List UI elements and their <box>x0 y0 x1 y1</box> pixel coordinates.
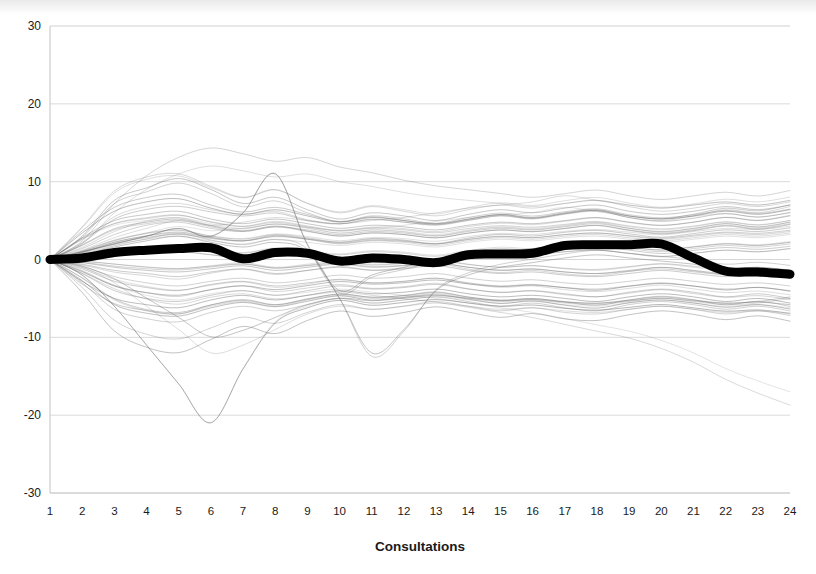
x-tick-label: 5 <box>175 505 181 517</box>
x-tick-label: 18 <box>591 505 604 517</box>
x-tick-label: 16 <box>526 505 539 517</box>
y-tick-label: 0 <box>34 253 41 267</box>
x-tick-label: 10 <box>333 505 346 517</box>
x-tick-label: 9 <box>304 505 310 517</box>
x-tick-label: 4 <box>143 505 150 517</box>
x-tick-label: 22 <box>719 505 732 517</box>
x-tick-label: 6 <box>208 505 214 517</box>
x-tick-label: 15 <box>494 505 507 517</box>
x-axis-title: Consultations <box>375 539 465 554</box>
x-tick-label: 12 <box>398 505 411 517</box>
chart-container: 3020100-10-20-30 12345678910111213141516… <box>0 0 816 574</box>
x-tick-label: 2 <box>79 505 85 517</box>
x-tick-label: 17 <box>558 505 571 517</box>
x-tick-label: 1 <box>47 505 53 517</box>
x-tick-label: 7 <box>240 505 246 517</box>
y-tick-label: 30 <box>28 19 42 33</box>
x-tick-label: 24 <box>784 505 797 517</box>
x-tick-label: 3 <box>111 505 117 517</box>
y-tick-label: 10 <box>28 175 42 189</box>
x-tick-label: 20 <box>655 505 668 517</box>
line-chart: 3020100-10-20-30 12345678910111213141516… <box>0 0 816 574</box>
x-tick-label: 13 <box>430 505 443 517</box>
x-tick-label: 8 <box>272 505 278 517</box>
y-tick-label: -30 <box>24 486 42 500</box>
y-tick-label: -20 <box>24 408 42 422</box>
x-tick-label: 23 <box>751 505 764 517</box>
y-tick-label: 20 <box>28 97 42 111</box>
x-tick-label: 11 <box>366 505 378 517</box>
y-tick-label: -10 <box>24 330 42 344</box>
x-tick-label: 14 <box>462 505 475 517</box>
x-tick-label: 19 <box>623 505 636 517</box>
x-tick-label: 21 <box>687 505 700 517</box>
